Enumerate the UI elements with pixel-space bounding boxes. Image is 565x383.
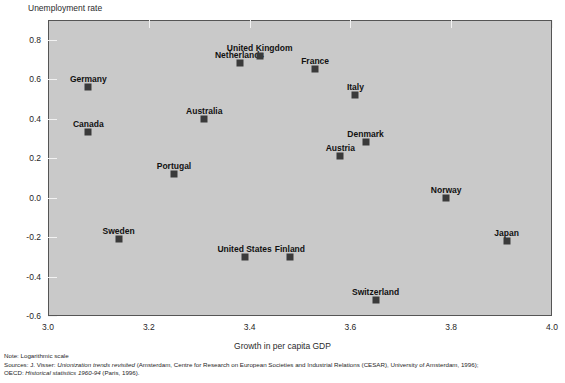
y-tick-label: 0.2 — [7, 153, 41, 163]
y-tick-mark — [48, 79, 57, 80]
data-point-label: United States — [217, 244, 271, 254]
x-tick-label: 3.0 — [28, 322, 68, 332]
y-axis-title: Unemployment rate — [28, 3, 102, 13]
x-tick-label: 4.0 — [532, 322, 565, 332]
y-tick-label: -0.6 — [7, 311, 41, 321]
data-point[interactable] — [201, 115, 208, 122]
y-tick-label: 0.8 — [7, 35, 41, 45]
data-point[interactable] — [503, 238, 510, 245]
x-tick-mark — [250, 20, 251, 28]
source2-title-italic: Historical statistics 1960-94 — [25, 369, 100, 376]
footnote-source-line-2: OECD: Historical statistics 1960-94 (Par… — [4, 369, 562, 378]
data-point[interactable] — [372, 297, 379, 304]
x-tick-label: 3.8 — [431, 322, 471, 332]
data-point[interactable] — [236, 60, 243, 67]
source-title-italic: Unionization trends revisited — [57, 361, 135, 368]
y-tick-label: 0.6 — [7, 74, 41, 84]
data-point[interactable] — [286, 253, 293, 260]
data-point[interactable] — [362, 139, 369, 146]
scatter-plot: 0.80.60.40.20.0-0.2-0.4-0.6 3.03.23.43.6… — [48, 20, 552, 316]
y-tick-label: 0.0 — [7, 193, 41, 203]
data-point[interactable] — [312, 66, 319, 73]
data-point[interactable] — [171, 170, 178, 177]
data-point-label: Finland — [275, 244, 305, 254]
data-point-label: France — [301, 56, 329, 66]
data-point-label: Germany — [70, 74, 107, 84]
source-suffix: (Amsterdam, Centre for Research on Europ… — [135, 361, 479, 368]
source-prefix: Sources: J. Visser: — [4, 361, 57, 368]
data-point-label: Japan — [494, 228, 519, 238]
x-tick-mark — [149, 20, 150, 28]
data-point[interactable] — [85, 129, 92, 136]
data-point-label: Norway — [431, 185, 462, 195]
x-tick-label: 3.6 — [330, 322, 370, 332]
data-point-label: Portugal — [157, 161, 191, 171]
footnote-note: Note: Logarithmic scale — [4, 352, 562, 361]
x-tick-mark — [350, 20, 351, 28]
data-point-label: Australia — [186, 106, 222, 116]
y-tick-mark — [48, 119, 57, 120]
data-point-label: Italy — [347, 82, 364, 92]
plot-area — [48, 20, 552, 316]
data-point[interactable] — [443, 194, 450, 201]
y-tick-mark — [48, 316, 57, 317]
data-point[interactable] — [337, 153, 344, 160]
x-tick-mark — [451, 20, 452, 28]
data-point[interactable] — [256, 52, 263, 59]
y-tick-mark — [48, 237, 57, 238]
data-point[interactable] — [241, 253, 248, 260]
x-tick-mark — [552, 20, 553, 28]
data-point-label: Sweden — [102, 226, 134, 236]
data-point[interactable] — [115, 236, 122, 243]
data-point[interactable] — [352, 91, 359, 98]
y-tick-label: -0.2 — [7, 232, 41, 242]
data-point-label: Canada — [73, 119, 104, 129]
source2-suffix: (Paris, 1996). — [101, 369, 140, 376]
y-tick-label: 0.4 — [7, 114, 41, 124]
y-tick-mark — [48, 158, 57, 159]
footnote-source-line-1: Sources: J. Visser: Unionization trends … — [4, 361, 562, 370]
data-point-label: United Kingdom — [227, 43, 293, 53]
y-tick-label: -0.4 — [7, 272, 41, 282]
y-tick-mark — [48, 40, 57, 41]
x-axis-title: Growth in per capita GDP — [0, 341, 565, 351]
x-tick-label: 3.4 — [230, 322, 270, 332]
y-tick-mark — [48, 277, 57, 278]
source2-prefix: OECD: — [4, 369, 25, 376]
data-point-label: Austria — [326, 143, 355, 153]
data-point-label: Denmark — [347, 129, 383, 139]
data-point-label: Switzerland — [352, 287, 399, 297]
data-point[interactable] — [85, 84, 92, 91]
y-tick-mark — [48, 198, 57, 199]
x-tick-label: 3.2 — [129, 322, 169, 332]
footnotes: Note: Logarithmic scale Sources: J. Viss… — [4, 352, 562, 378]
